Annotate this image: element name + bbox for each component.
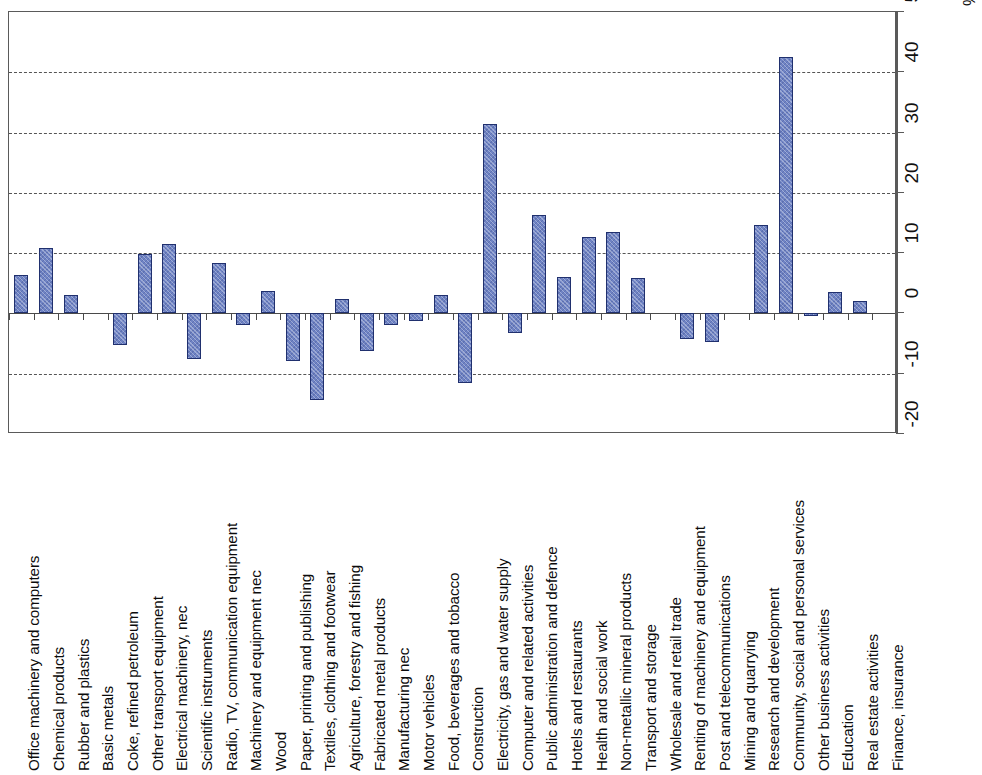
category-label: Real estate activities	[865, 634, 880, 771]
category-label: Research and development	[766, 588, 781, 771]
y-tick-label: 0	[901, 263, 923, 323]
x-tick	[601, 313, 602, 320]
y-tick-label: 10	[901, 203, 923, 263]
category-label: Construction	[470, 687, 485, 771]
category-label: Finance, insurance	[890, 644, 905, 771]
category-label: Renting of machinery and equipment	[692, 526, 707, 771]
plot-inner	[9, 12, 895, 432]
bar	[212, 263, 226, 313]
category-label: Machinery and equipment nec	[248, 570, 263, 771]
bar	[508, 313, 522, 332]
y-axis-line	[896, 11, 898, 433]
bar	[483, 124, 497, 314]
category-label: Non-metallic mineral products	[618, 573, 633, 771]
category-label: Basic metals	[100, 686, 115, 771]
x-tick	[132, 313, 133, 320]
x-tick	[576, 313, 577, 320]
category-label: Wholesale and retail trade	[668, 597, 683, 771]
category-label: Public administration and defence	[544, 546, 559, 771]
category-label: Electricity, gas and water supply	[495, 558, 510, 771]
x-tick	[379, 313, 380, 320]
category-label: Manufacturing nec	[396, 648, 411, 771]
y-tick-label: 30	[901, 83, 923, 143]
bar	[631, 278, 645, 313]
category-label: Other transport equipment	[150, 596, 165, 771]
x-tick	[428, 313, 429, 320]
x-tick	[700, 313, 701, 320]
gridline-40	[9, 72, 895, 73]
bar	[360, 313, 374, 351]
x-tick	[256, 313, 257, 320]
bar	[532, 215, 546, 313]
bar	[804, 313, 818, 316]
x-tick	[453, 313, 454, 320]
category-label: Textiles, clothing and footwear	[322, 571, 337, 771]
x-tick	[724, 313, 725, 320]
gridline-30	[9, 133, 895, 134]
category-label: Agriculture, forestry and fishing	[347, 565, 362, 771]
x-tick	[34, 313, 35, 320]
bar	[187, 313, 201, 358]
y-tick-label: 20	[901, 143, 923, 203]
bar	[384, 313, 398, 324]
category-label: Rubber and plastics	[76, 639, 91, 771]
x-tick	[206, 313, 207, 320]
bar	[680, 313, 694, 338]
bar-chart-figure: 50403020100-10-20 % Office machinery and…	[0, 0, 982, 775]
x-tick	[675, 313, 676, 320]
category-label: Fabricated metal products	[372, 598, 387, 771]
x-tick	[157, 313, 158, 320]
x-tick	[182, 313, 183, 320]
category-label: Hotels and restaurants	[569, 620, 584, 771]
bar	[335, 299, 349, 313]
category-label: Scientific instruments	[199, 630, 214, 771]
category-label: Paper, printing and publishing	[298, 574, 313, 771]
x-tick	[58, 313, 59, 320]
x-axis-category-labels: Office machinery and computersChemical p…	[0, 436, 982, 775]
y-axis-unit-label: %	[960, 0, 980, 6]
x-tick	[650, 313, 651, 320]
x-tick	[404, 313, 405, 320]
y-tick-label: 40	[901, 22, 923, 82]
bar	[582, 237, 596, 314]
bar	[39, 248, 53, 313]
bar	[779, 57, 793, 313]
gridline-neg10	[9, 374, 895, 375]
x-tick	[626, 313, 627, 320]
gridline-20	[9, 193, 895, 194]
category-label: Food, beverages and tobacco	[446, 573, 461, 771]
x-tick	[305, 313, 306, 320]
bar	[261, 291, 275, 314]
bar	[705, 313, 719, 342]
category-label: Radio, TV, communication equipment	[224, 523, 239, 771]
x-tick	[774, 313, 775, 320]
bar	[113, 313, 127, 344]
y-tick-label: -10	[901, 324, 923, 384]
category-label: Computer and related activities	[520, 565, 535, 771]
x-tick	[354, 313, 355, 320]
x-tick	[280, 313, 281, 320]
x-tick	[872, 313, 873, 320]
x-tick	[83, 313, 84, 320]
bar	[458, 313, 472, 382]
bar	[64, 295, 78, 313]
bar	[310, 313, 324, 399]
category-label: Transport and storage	[643, 624, 658, 771]
bar	[853, 301, 867, 313]
category-label: Community, social and personal services	[791, 500, 806, 771]
bar	[828, 292, 842, 313]
category-label: Office machinery and computers	[26, 556, 41, 771]
x-tick	[527, 313, 528, 320]
x-tick	[330, 313, 331, 320]
y-tick-label: -20	[901, 384, 923, 444]
category-label: Motor vehicles	[421, 674, 436, 771]
bar	[236, 313, 250, 325]
category-label: Electrical machinery, nec	[174, 606, 189, 771]
x-tick	[108, 313, 109, 320]
x-tick	[798, 313, 799, 320]
bar	[138, 254, 152, 314]
x-tick	[478, 313, 479, 320]
category-label: Education	[840, 704, 855, 771]
x-tick	[552, 313, 553, 320]
category-label: Post and telecommunications	[717, 575, 732, 771]
